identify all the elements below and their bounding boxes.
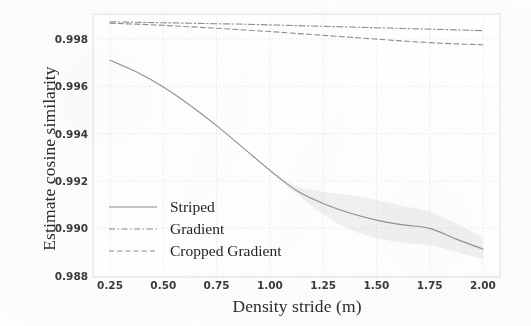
plot-canvas: [0, 0, 531, 326]
legend-item[interactable]: Striped: [108, 196, 281, 218]
legend-line-swatch: [108, 223, 158, 235]
legend-item-label: Striped: [170, 198, 215, 216]
legend-item-label: Cropped Gradient: [170, 242, 281, 260]
legend-item[interactable]: Cropped Gradient: [108, 240, 281, 262]
chart-legend: StripedGradientCropped Gradient: [108, 196, 281, 262]
chart-figure: Estimate cosine similarity Density strid…: [0, 0, 531, 326]
legend-item-label: Gradient: [170, 220, 224, 238]
legend-line-swatch: [108, 201, 158, 213]
legend-item[interactable]: Gradient: [108, 218, 281, 240]
legend-line-swatch: [108, 245, 158, 257]
